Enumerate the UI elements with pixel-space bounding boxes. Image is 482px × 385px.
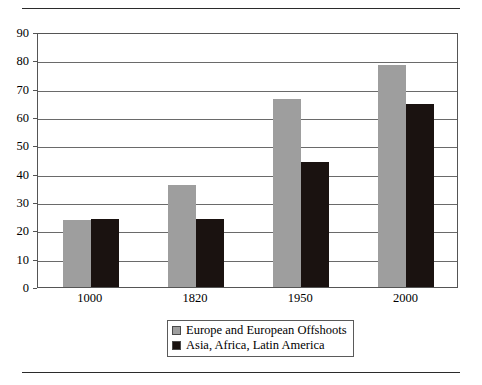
bars-layer	[38, 34, 457, 287]
bar-1950-series-0	[273, 99, 301, 287]
y-axis: 0102030405060708090	[0, 0, 37, 385]
legend-item: Europe and European Offshoots	[172, 323, 347, 338]
bar-2000-series-1	[406, 104, 434, 287]
y-tick-label: 80	[17, 55, 30, 68]
bar-1950-series-1	[301, 162, 329, 287]
bar-1820-series-0	[168, 185, 196, 287]
x-axis: 1000182019502000	[37, 292, 458, 312]
bottom-horizontal-rule	[22, 372, 460, 373]
x-tick-label: 1820	[182, 292, 207, 305]
legend-label: Europe and European Offshoots	[186, 324, 347, 337]
top-horizontal-rule	[22, 8, 460, 9]
bar-1000-series-1	[91, 219, 119, 287]
x-tick-label: 1950	[288, 292, 313, 305]
chart-legend: Europe and European OffshootsAsia, Afric…	[167, 320, 354, 357]
plot-area	[37, 33, 458, 288]
y-tick-label: 60	[17, 112, 30, 125]
y-tick-label: 10	[17, 253, 30, 266]
bar-2000-series-0	[378, 65, 406, 287]
legend-item: Asia, Africa, Latin America	[172, 338, 347, 353]
legend-label: Asia, Africa, Latin America	[186, 339, 325, 352]
y-tick-label: 90	[17, 27, 30, 40]
y-tick-mark	[33, 288, 37, 289]
y-tick-label: 30	[17, 197, 30, 210]
legend-swatch-icon	[172, 326, 181, 335]
y-tick-label: 50	[17, 140, 30, 153]
bar-1820-series-1	[196, 219, 224, 287]
x-tick-label: 1000	[77, 292, 102, 305]
y-tick-label: 70	[17, 83, 30, 96]
y-tick-label: 20	[17, 225, 30, 238]
figure: 0102030405060708090 1000182019502000 Eur…	[0, 0, 482, 385]
x-tick-label: 2000	[393, 292, 418, 305]
legend-swatch-icon	[172, 341, 181, 350]
bar-1000-series-0	[63, 220, 91, 287]
y-tick-label: 0	[23, 282, 29, 295]
y-tick-label: 40	[17, 168, 30, 181]
